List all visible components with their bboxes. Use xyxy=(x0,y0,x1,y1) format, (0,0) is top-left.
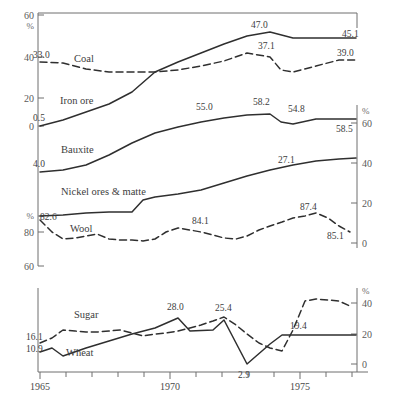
series-label-iron-ore: Iron ore xyxy=(60,95,94,106)
axis-tick-40-right: 40 xyxy=(362,158,372,169)
series-label-sugar: Sugar xyxy=(74,309,99,320)
axis-tick-0-right: 0 xyxy=(362,238,367,249)
axis-tick-60-left: 60 xyxy=(24,10,34,21)
value-label-wheat-plateau: 19.4 xyxy=(290,321,307,331)
axis-tick-20-left: 20 xyxy=(24,93,34,104)
x-axis-ticks xyxy=(40,372,352,379)
value-label-wool-start: 82.6 xyxy=(40,212,57,222)
axis-unit-percent-lower-right: % xyxy=(362,286,370,296)
lower-right-axis-ticks xyxy=(351,303,357,364)
chart-svg: 60 % 40 20 0 % 80 60 % 60 40 20 0 % 40 2… xyxy=(0,0,413,404)
axis-unit-percent-wool-left: % xyxy=(27,211,35,221)
series-annotations: Coal Iron ore Bauxite Nickel ores & matt… xyxy=(60,53,146,358)
axis-tick-60-lower-left: 60 xyxy=(24,261,34,272)
x-tick-label-1965: 1965 xyxy=(30,381,50,392)
value-label-wheat-trough: 2.9 xyxy=(238,370,250,380)
value-label-iron-ore-start: 0.5 xyxy=(33,113,45,123)
axis-tick-20-right: 20 xyxy=(362,198,372,209)
axis-tick-60-right: 60 xyxy=(362,118,372,129)
value-label-sugar-start: 16.1 xyxy=(26,332,43,342)
axis-tick-0-lower-right: 0 xyxy=(362,359,367,370)
axis-tick-40-lower-right: 40 xyxy=(362,298,372,309)
value-label-wheat-start: 10.9 xyxy=(26,344,43,354)
value-label-coal-start: 33.0 xyxy=(33,50,50,60)
upper-right-axis-labels: % 60 40 20 0 xyxy=(362,106,372,249)
chart-figure: 60 % 40 20 0 % 80 60 % 60 40 20 0 % 40 2… xyxy=(0,0,413,404)
value-label-bauxite-end: 58.5 xyxy=(336,124,353,134)
value-labels-lower: 16.1 28.0 10.9 25.4 2.9 19.4 xyxy=(26,302,307,380)
value-label-bauxite-start: 4.0 xyxy=(33,159,45,169)
value-label-bauxite-peak: 58.2 xyxy=(253,97,270,107)
series-label-wheat: Wheat xyxy=(66,347,93,358)
series-label-coal: Coal xyxy=(74,53,94,64)
series-label-bauxite: Bauxite xyxy=(61,144,94,155)
lower-right-axis-labels: % 40 20 0 xyxy=(362,286,372,370)
x-tick-label-1975: 1975 xyxy=(290,381,310,392)
upper-right-axis-ticks xyxy=(351,123,357,243)
value-label-wool-mid: 84.1 xyxy=(192,216,209,226)
value-label-wheat-peak: 28.0 xyxy=(167,302,184,312)
series-bauxite xyxy=(40,114,356,172)
value-label-coal-end: 39.0 xyxy=(337,48,354,58)
axis-unit-percent-upper-right: % xyxy=(362,106,370,116)
value-label-iron-ore-peak: 47.0 xyxy=(251,20,268,30)
value-label-wheat-second-peak: 25.4 xyxy=(215,303,232,313)
axis-tick-80-left: 80 xyxy=(24,227,34,238)
x-axis-labels: 1965 1970 1975 xyxy=(30,381,310,392)
series-label-nickel-ores-matte: Nickel ores & matte xyxy=(61,186,146,197)
value-label-iron-ore-end: 45.1 xyxy=(342,29,359,39)
value-label-wool-end: 85.1 xyxy=(327,231,344,241)
series-label-wool: Wool xyxy=(70,223,93,234)
axis-unit-percent-upper-left: % xyxy=(27,21,35,31)
value-label-coal-peak: 37.1 xyxy=(258,41,275,51)
value-label-wool-peak: 87.4 xyxy=(300,202,317,212)
value-label-bauxite-mid: 55.0 xyxy=(196,102,213,112)
value-label-nickel-mid: 27.1 xyxy=(278,155,295,165)
x-tick-label-1970: 1970 xyxy=(160,381,180,392)
value-label-bauxite-dip: 54.8 xyxy=(288,104,305,114)
axis-tick-20-lower-right: 20 xyxy=(362,329,372,340)
